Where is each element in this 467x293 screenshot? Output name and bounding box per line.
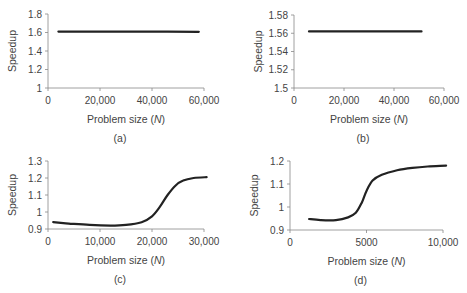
y-tick-label: 1.3 xyxy=(28,156,42,167)
y-tick-label: 1.58 xyxy=(269,10,289,21)
y-tick-label: 1.4 xyxy=(28,46,42,57)
x-axis-title: Problem size (N) xyxy=(87,254,165,266)
y-tick-label: 1.6 xyxy=(28,27,42,38)
chart-panel-d: 0.911.11.20500010,000SpeedupProblem size… xyxy=(248,156,459,287)
panel-label: (a) xyxy=(114,132,127,144)
chart-panel-b: 1.51.521.541.561.58020,00040,00060,000Sp… xyxy=(252,10,460,145)
x-axis-title: Problem size (N) xyxy=(327,255,405,267)
x-tick-label: 10,000 xyxy=(85,236,116,247)
y-tick-label: 0.9 xyxy=(270,225,284,236)
x-tick-label: 40,000 xyxy=(137,95,168,106)
y-tick-label: 1.5 xyxy=(274,83,288,94)
x-axis-title: Problem size (N) xyxy=(330,113,408,125)
y-tick-label: 0.9 xyxy=(28,224,42,235)
y-axis-title: Speedup xyxy=(252,30,264,72)
y-tick-label: 1.1 xyxy=(28,190,42,201)
x-tick-label: 40,000 xyxy=(379,95,410,106)
x-tick-label: 60,000 xyxy=(189,95,220,106)
x-tick-label: 20,000 xyxy=(329,95,360,106)
speedup-line xyxy=(309,166,446,221)
chart-panel-c: 0.911.11.21.3010,00020,00030,000SpeedupP… xyxy=(6,156,220,286)
y-tick-label: 1.2 xyxy=(28,173,42,184)
x-tick-label: 0 xyxy=(287,237,293,248)
y-axis-title: Speedup xyxy=(6,174,18,216)
y-tick-label: 1 xyxy=(36,83,42,94)
x-tick-label: 0 xyxy=(45,95,51,106)
y-tick-label: 1.54 xyxy=(269,46,289,57)
x-tick-label: 0 xyxy=(45,236,51,247)
speedup-line xyxy=(53,177,206,225)
x-tick-label: 20,000 xyxy=(137,236,168,247)
y-tick-label: 1 xyxy=(36,207,42,218)
x-tick-label: 0 xyxy=(291,95,297,106)
y-tick-label: 1.56 xyxy=(269,28,289,39)
x-tick-label: 30,000 xyxy=(189,236,220,247)
x-tick-label: 5000 xyxy=(355,237,378,248)
y-tick-label: 1 xyxy=(278,202,284,213)
x-axis-title: Problem size (N) xyxy=(87,113,165,125)
y-tick-label: 1.2 xyxy=(270,156,284,167)
x-tick-label: 20,000 xyxy=(85,95,116,106)
y-axis-title: Speedup xyxy=(6,30,18,72)
panel-label: (d) xyxy=(354,274,367,286)
y-tick-label: 1.1 xyxy=(270,179,284,190)
y-tick-label: 1.2 xyxy=(28,64,42,75)
x-tick-label: 10,000 xyxy=(428,237,459,248)
y-axis-title: Speedup xyxy=(248,174,260,216)
figure-canvas: 11.21.41.61.8020,00040,00060,000SpeedupP… xyxy=(0,0,467,293)
panel-label: (b) xyxy=(357,132,370,144)
x-tick-label: 60,000 xyxy=(429,95,460,106)
y-tick-label: 1.52 xyxy=(269,64,289,75)
chart-panel-a: 11.21.41.61.8020,00040,00060,000SpeedupP… xyxy=(6,9,220,145)
panel-label: (c) xyxy=(114,273,126,285)
y-tick-label: 1.8 xyxy=(28,9,42,20)
